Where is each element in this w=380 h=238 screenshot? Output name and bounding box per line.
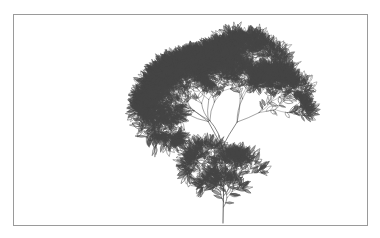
- leaf: [267, 96, 269, 104]
- margin-text-block: n n -: [0, 30, 11, 70]
- plant-leaves: [125, 22, 320, 204]
- figure-frame: [13, 14, 368, 226]
- branch-segment: [202, 103, 210, 120]
- leaf: [198, 91, 203, 99]
- branch-segment: [271, 95, 281, 101]
- leaf: [160, 143, 162, 152]
- plant-svg: [14, 15, 369, 227]
- branch-segment: [237, 113, 259, 122]
- leaf: [271, 110, 276, 114]
- branch-segment: [237, 98, 240, 122]
- branch-segment: [275, 100, 283, 110]
- branch-segment: [210, 102, 215, 121]
- fractal-plant-illustration: [14, 15, 369, 227]
- leaf: [135, 135, 147, 137]
- leaf: [285, 112, 289, 118]
- leaf: [225, 202, 234, 204]
- scanned-page: n n -: [0, 0, 380, 238]
- leaf: [279, 105, 286, 107]
